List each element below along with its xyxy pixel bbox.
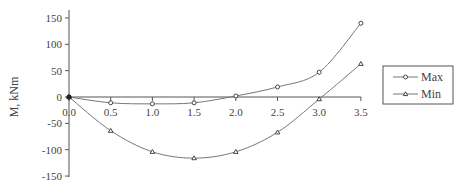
circle-marker-icon (276, 85, 280, 89)
series-line-max (69, 23, 361, 104)
y-tick-label: -100 (42, 144, 63, 156)
circle-marker-icon (359, 21, 363, 25)
x-tick-label: 3.5 (354, 106, 368, 118)
triangle-marker-icon (192, 156, 197, 160)
x-tick-label: 2.0 (229, 106, 243, 118)
triangle-marker-icon (275, 130, 280, 134)
circle-marker-icon (192, 101, 196, 105)
x-tick-label: 2.5 (271, 106, 285, 118)
legend: Max Min (383, 66, 453, 104)
y-tick-label: 150 (46, 12, 63, 24)
legend-label-min: Min (421, 87, 441, 101)
y-tick-label: 50 (51, 65, 63, 77)
line-chart: 150100500-50-100-150 0.00.51.01.52.02.53… (0, 0, 458, 192)
triangle-marker-icon (234, 150, 239, 154)
triangle-marker-icon (150, 150, 155, 154)
circle-marker-icon (317, 70, 321, 74)
y-axis-label: M, kNm (7, 76, 21, 117)
y-axis: 150100500-50-100-150 (42, 10, 69, 182)
series-layer (67, 21, 364, 160)
y-tick-label: 100 (46, 38, 63, 50)
triangle-marker-icon (359, 61, 364, 65)
circle-marker-icon (404, 75, 408, 79)
circle-marker-icon (150, 102, 154, 106)
x-tick-label: 1.0 (146, 106, 160, 118)
x-tick-label: 0.5 (104, 106, 118, 118)
x-tick-label: 1.5 (187, 106, 201, 118)
x-tick-label: 3.0 (312, 106, 326, 118)
circle-marker-icon (234, 94, 238, 98)
legend-label-max: Max (421, 70, 443, 84)
y-tick-label: -150 (42, 170, 63, 182)
y-tick-label: -50 (47, 117, 62, 129)
y-tick-label: 0 (57, 91, 63, 103)
triangle-marker-icon (108, 128, 113, 132)
origin-marker-icon (67, 95, 72, 100)
x-tick-label: 0.0 (62, 106, 76, 118)
circle-marker-icon (109, 101, 113, 105)
series-max (67, 21, 363, 106)
